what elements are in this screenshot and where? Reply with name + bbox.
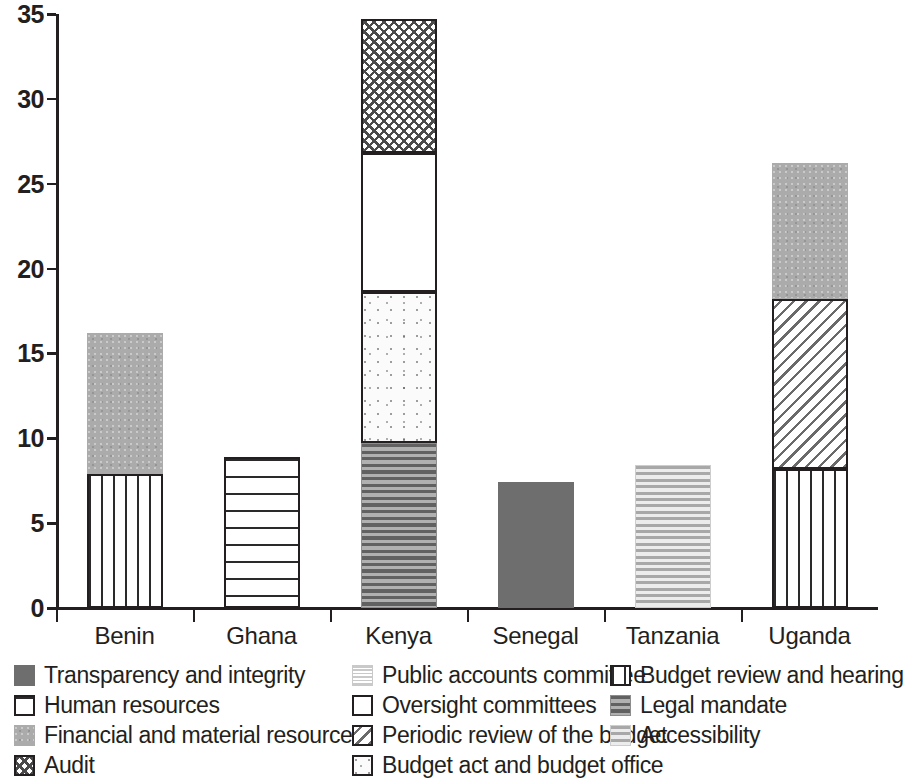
bar-senegal[interactable] [498, 482, 574, 608]
bar-segment-periodic[interactable] [772, 299, 848, 469]
legend-swatch-accessibility-icon [610, 725, 631, 746]
legend-swatch-humanres-icon [14, 695, 35, 716]
legend-item[interactable]: Budget review and hearing [610, 660, 904, 690]
legend-swatch-budgetact-icon [352, 755, 373, 776]
x-tick-mark [193, 609, 195, 622]
legend-item[interactable]: Audit [14, 750, 364, 780]
x-tick-mark [330, 609, 332, 622]
x-tick-label-benin: Benin [95, 622, 155, 650]
bar-kenya[interactable] [361, 19, 437, 608]
legend-item[interactable]: Financial and material resources [14, 720, 364, 750]
bar-segment-budgetact[interactable] [361, 292, 437, 443]
bar-segment-financial[interactable] [772, 163, 848, 299]
bar-tanzania[interactable] [635, 465, 711, 608]
legend-label: Human resources [44, 692, 220, 719]
x-tick-label-tanzania: Tanzania [626, 622, 720, 650]
legend-item[interactable]: Legal mandate [610, 690, 904, 720]
legend-swatch-budgetreview-icon [610, 665, 631, 686]
legend-label: Accessibility [640, 722, 760, 749]
legend-label: Transparency and integrity [44, 662, 305, 689]
legend-swatch-audit-icon [14, 755, 35, 776]
x-tick-label-senegal: Senegal [493, 622, 579, 650]
bar-group [0, 0, 886, 608]
plot-area: 05101520253035 BeninGhanaKenyaSenegalTan… [0, 0, 886, 660]
legend-column-3: Budget review and hearingLegal mandateAc… [610, 660, 904, 750]
x-tick-label-uganda: Uganda [768, 622, 850, 650]
legend-swatch-financial-icon [14, 725, 35, 746]
legend-swatch-oversight-icon [352, 695, 373, 716]
bar-segment-oversight[interactable] [361, 153, 437, 292]
x-tick-label-ghana: Ghana [226, 622, 297, 650]
bar-segment-transparency[interactable] [498, 482, 574, 608]
legend-column-1: Transparency and integrityHuman resource… [14, 660, 364, 780]
bar-segment-budgetreview[interactable] [87, 474, 163, 608]
legend-label: Public accounts committee [382, 662, 646, 689]
x-tick-mark [467, 609, 469, 622]
bar-ghana[interactable] [224, 457, 300, 608]
legend-swatch-pac-icon [352, 665, 373, 686]
legend-item[interactable]: Accessibility [610, 720, 904, 750]
bar-segment-accessibility[interactable] [635, 465, 711, 608]
legend-swatch-legal-icon [610, 695, 631, 716]
bar-benin[interactable] [87, 333, 163, 608]
legend-item[interactable]: Transparency and integrity [14, 660, 364, 690]
bar-segment-budgetreview[interactable] [772, 469, 848, 608]
legend-item[interactable]: Budget act and budget office [352, 750, 667, 780]
bar-segment-humanres[interactable] [224, 457, 300, 608]
legend-swatch-periodic-icon [352, 725, 373, 746]
legend-label: Financial and material resources [44, 722, 364, 749]
bar-segment-audit[interactable] [361, 19, 437, 153]
bar-segment-financial[interactable] [87, 333, 163, 474]
x-tick-mark [604, 609, 606, 622]
x-tick-label-kenya: Kenya [365, 622, 432, 650]
x-tick-mark [741, 609, 743, 622]
legend-label: Oversight committees [382, 692, 596, 719]
bar-segment-legal[interactable] [361, 443, 437, 608]
legend-swatch-transparency-icon [14, 665, 35, 686]
legend-item[interactable]: Human resources [14, 690, 364, 720]
legend-label: Budget review and hearing [640, 662, 904, 689]
chart-legend: Transparency and integrityHuman resource… [0, 660, 886, 781]
bar-uganda[interactable] [772, 163, 848, 608]
legend-label: Legal mandate [640, 692, 787, 719]
x-tick-mark [56, 609, 58, 622]
legend-label: Budget act and budget office [382, 752, 663, 779]
legend-label: Audit [44, 752, 94, 779]
